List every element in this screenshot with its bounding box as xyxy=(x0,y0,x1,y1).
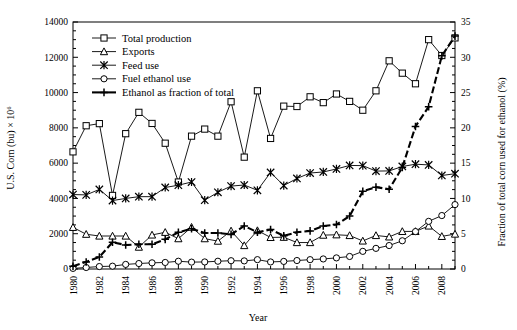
x-tick-label: 1980 xyxy=(69,276,79,295)
data-point xyxy=(228,258,234,264)
series-line xyxy=(73,164,455,200)
data-point xyxy=(100,89,108,97)
data-point xyxy=(373,245,379,251)
data-point xyxy=(386,58,392,64)
data-point xyxy=(359,237,366,244)
data-point xyxy=(360,107,366,113)
data-point xyxy=(214,188,221,196)
y-tick-label: 12000 xyxy=(44,53,68,63)
data-point xyxy=(228,99,234,105)
data-point xyxy=(280,181,287,189)
data-point xyxy=(162,229,169,236)
legend-label-2: Feed use xyxy=(122,60,159,71)
data-point xyxy=(426,37,432,43)
data-point xyxy=(101,76,107,82)
data-point xyxy=(175,229,183,237)
legend-label-4: Ethanol as fraction of total xyxy=(122,87,234,98)
data-point xyxy=(359,188,367,196)
data-point xyxy=(294,103,300,109)
data-point xyxy=(149,260,155,266)
legend-label-0: Total production xyxy=(122,33,192,44)
data-point xyxy=(83,123,89,129)
data-point xyxy=(293,174,300,182)
data-point xyxy=(307,94,313,100)
y2-tick-label: 20 xyxy=(461,123,471,133)
data-point xyxy=(70,149,76,155)
y2-tick-label: 0 xyxy=(461,264,466,274)
data-point xyxy=(360,248,366,254)
data-point xyxy=(201,229,209,237)
data-point xyxy=(281,103,287,109)
data-point xyxy=(201,196,208,204)
y2-tick-label: 25 xyxy=(461,88,471,98)
data-point xyxy=(333,165,340,173)
x-tick-label: 1986 xyxy=(148,276,158,295)
y-tick-label: 0 xyxy=(63,264,68,274)
series-line xyxy=(73,205,455,269)
data-point xyxy=(306,227,314,235)
y-axis-label: U.S. Corn (bu) × 10⁶ xyxy=(5,106,17,190)
x-axis-label: Year xyxy=(249,312,268,323)
y-tick-label: 2000 xyxy=(49,229,68,239)
data-point xyxy=(135,241,143,249)
y-tick-label: 6000 xyxy=(49,158,68,168)
data-point xyxy=(162,259,168,265)
data-point xyxy=(96,121,102,127)
x-tick-label: 1998 xyxy=(306,276,316,295)
data-point xyxy=(241,154,247,160)
series-exports xyxy=(69,222,458,250)
data-point xyxy=(254,186,261,194)
data-point xyxy=(452,202,458,208)
data-point xyxy=(123,131,129,137)
data-point xyxy=(320,100,326,106)
data-point xyxy=(254,257,260,263)
data-point xyxy=(372,232,379,239)
data-point xyxy=(109,263,115,269)
data-point xyxy=(96,263,102,269)
y-tick-label: 10000 xyxy=(44,88,68,98)
x-tick-label: 1988 xyxy=(174,276,184,295)
data-point xyxy=(439,212,445,218)
data-point xyxy=(373,88,379,94)
y2-tick-label: 30 xyxy=(461,53,471,63)
x-tick-label: 1996 xyxy=(279,276,289,295)
x-tick-label: 1984 xyxy=(121,276,131,295)
x-tick-label: 2002 xyxy=(358,276,368,295)
data-point xyxy=(188,259,194,265)
data-point xyxy=(82,258,90,266)
x-tick-label: 2008 xyxy=(437,276,447,295)
y-tick-label: 4000 xyxy=(49,194,68,204)
legend-label-1: Exports xyxy=(122,46,155,57)
y-tick-label: 14000 xyxy=(44,17,68,27)
y-tick-label: 8000 xyxy=(49,123,68,133)
corn-usage-line-chart: 0200040006000800010000120001400005101520… xyxy=(0,0,517,330)
figure: 0200040006000800010000120001400005101520… xyxy=(0,0,517,330)
data-point xyxy=(293,229,301,237)
data-point xyxy=(320,256,326,262)
x-tick-label: 1992 xyxy=(227,276,237,295)
data-point xyxy=(294,257,300,263)
data-point xyxy=(385,185,393,193)
data-point xyxy=(412,228,418,234)
data-point xyxy=(426,218,432,224)
data-point xyxy=(148,241,156,249)
data-point xyxy=(175,258,181,264)
x-tick-label: 2000 xyxy=(332,276,342,295)
data-point xyxy=(267,168,274,176)
data-point xyxy=(267,135,273,141)
y2-axis-label: Fraction of total corn used for ethanol … xyxy=(496,77,508,246)
data-point xyxy=(281,258,287,264)
data-point xyxy=(267,226,275,234)
data-point xyxy=(215,258,221,264)
data-point xyxy=(372,183,380,191)
data-point xyxy=(188,178,195,186)
data-point xyxy=(202,259,208,265)
data-point xyxy=(136,109,142,115)
data-point xyxy=(202,126,208,132)
data-point xyxy=(83,231,90,238)
data-point xyxy=(188,133,194,139)
data-point xyxy=(399,238,405,244)
x-tick-label: 2004 xyxy=(385,276,395,295)
data-point xyxy=(161,236,169,244)
data-point xyxy=(101,35,107,41)
